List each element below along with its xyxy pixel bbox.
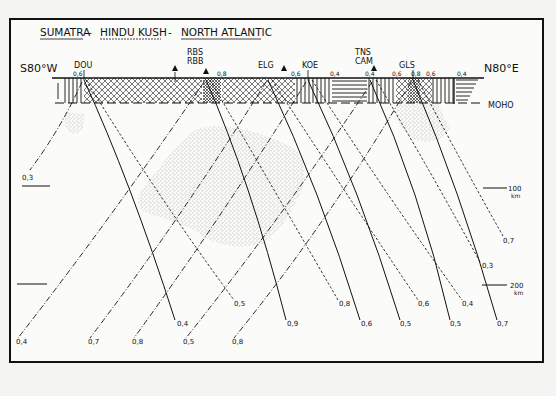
svg-text:0,4: 0,4	[457, 70, 467, 77]
direction-left-label: S80°W	[20, 62, 57, 75]
title-north-atlantic: NORTH ATLANTIC	[181, 26, 272, 38]
svg-text:0,8: 0,8	[411, 70, 421, 77]
svg-text:0,5: 0,5	[183, 338, 194, 346]
svg-text:0,8: 0,8	[132, 338, 143, 346]
station-cam: CAM	[355, 57, 373, 66]
stipple-anomaly-regions	[65, 100, 450, 247]
svg-text:0,4: 0,4	[365, 70, 375, 77]
svg-text:0,8: 0,8	[217, 70, 227, 77]
svg-text:0,3: 0,3	[482, 262, 493, 270]
title-sep-1: -	[88, 26, 92, 38]
station-elg: ELG	[258, 61, 274, 70]
svg-text:0,5: 0,5	[234, 300, 245, 308]
svg-text:0,8: 0,8	[339, 300, 350, 308]
station-rbb: RBB	[187, 57, 204, 66]
svg-text:0,6: 0,6	[426, 70, 436, 77]
crust-velocity-values: 0,6 0,8 0,6 0,4 0,4 0,6 0,8 0,6 0,4	[73, 70, 467, 77]
station-rbs: RBS	[187, 48, 203, 57]
cross-section-diagram: SUMATRA - HINDU KUSH - NORTH ATLANTIC S8…	[0, 0, 556, 396]
svg-text:0,5: 0,5	[450, 320, 461, 328]
svg-text:0,7: 0,7	[497, 320, 508, 328]
svg-text:0,4: 0,4	[177, 320, 189, 328]
svg-text:0,4: 0,4	[16, 338, 28, 346]
station-tns: TNS	[354, 48, 371, 57]
svg-text:0,6: 0,6	[361, 320, 373, 328]
svg-text:km: km	[511, 192, 520, 199]
direction-right-label: N80°E	[484, 62, 519, 75]
svg-text:0,9: 0,9	[287, 320, 298, 328]
title-hindu-kush: HINDU KUSH	[100, 26, 167, 38]
station-koe: KOE	[302, 61, 318, 70]
svg-text:0,6: 0,6	[418, 300, 430, 308]
svg-text:0,7: 0,7	[503, 237, 514, 245]
triangle-icon	[203, 68, 209, 74]
station-triangles	[172, 65, 377, 74]
station-gls: GLS	[399, 61, 415, 70]
triangle-icon	[172, 65, 178, 71]
diagram-title: SUMATRA - HINDU KUSH - NORTH ATLANTIC	[40, 26, 272, 39]
svg-text:0,8: 0,8	[232, 338, 243, 346]
svg-text:0,6: 0,6	[392, 70, 402, 77]
station-labels: DOU RBS RBB ELG KOE TNS CAM GLS	[74, 48, 415, 70]
station-dou: DOU	[74, 61, 92, 70]
svg-text:0,4: 0,4	[462, 300, 474, 308]
svg-text:km: km	[514, 289, 523, 296]
title-sumatra: SUMATRA	[40, 26, 91, 38]
svg-text:0,4: 0,4	[330, 70, 340, 77]
title-sep-2: -	[168, 26, 172, 38]
svg-text:0,6: 0,6	[291, 70, 301, 77]
moho-label: MOHO	[488, 101, 514, 110]
triangle-icon	[281, 65, 287, 71]
svg-text:0,3: 0,3	[22, 174, 33, 182]
svg-text:0,7: 0,7	[88, 338, 99, 346]
svg-text:0,5: 0,5	[400, 320, 411, 328]
svg-text:0,6: 0,6	[73, 70, 83, 77]
